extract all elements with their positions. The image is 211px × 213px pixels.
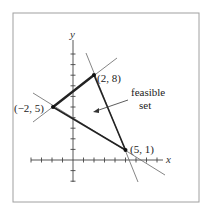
edge-bottom	[53, 107, 126, 150]
annotation-arrow	[93, 100, 128, 113]
arrow-head-icon	[93, 108, 99, 113]
x-axis-label: x	[165, 153, 171, 165]
vertex-label-5-1: (5, 1)	[130, 143, 154, 156]
vertex-5-1	[124, 148, 128, 152]
vertex-label-2-8: (2, 8)	[97, 72, 121, 85]
feasible-label-line1: feasible	[131, 86, 165, 98]
edge-top-left	[53, 75, 94, 107]
vertex-neg2-5	[51, 105, 55, 109]
vertex-2-8	[92, 73, 96, 77]
y-axis-label: y	[69, 28, 75, 40]
feasible-set-diagram: x y (2, 8) (−2, 5) (5, 1) feasible set	[0, 0, 211, 213]
feasible-label-line2: set	[139, 99, 151, 111]
vertex-label-neg2-5: (−2, 5)	[14, 102, 44, 115]
